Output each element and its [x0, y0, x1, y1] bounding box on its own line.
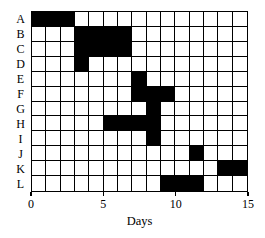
- gantt-empty-cell: [32, 87, 46, 102]
- gantt-bar-cell: [147, 87, 161, 102]
- gantt-empty-cell: [147, 42, 161, 57]
- row-label-c: C: [12, 41, 29, 56]
- gantt-bar-cell: [89, 27, 103, 42]
- gantt-bar-cell: [75, 42, 89, 57]
- gantt-empty-cell: [132, 102, 146, 117]
- gantt-bar-cell: [75, 27, 89, 42]
- gantt-empty-cell: [175, 12, 189, 27]
- gantt-empty-cell: [218, 131, 232, 146]
- gantt-bar-cell: [190, 146, 204, 161]
- gantt-empty-cell: [147, 27, 161, 42]
- gantt-empty-cell: [32, 42, 46, 57]
- gantt-empty-cell: [233, 27, 247, 42]
- gantt-empty-cell: [147, 146, 161, 161]
- gantt-empty-cell: [190, 102, 204, 117]
- gantt-empty-cell: [190, 116, 204, 131]
- gantt-empty-cell: [233, 87, 247, 102]
- gantt-empty-cell: [161, 131, 175, 146]
- gantt-empty-cell: [161, 102, 175, 117]
- gantt-bar-cell: [233, 161, 247, 176]
- gantt-empty-cell: [132, 161, 146, 176]
- row-label-b: B: [12, 26, 29, 41]
- gantt-empty-cell: [118, 87, 132, 102]
- gantt-empty-cell: [132, 27, 146, 42]
- gantt-empty-cell: [233, 57, 247, 72]
- gantt-empty-cell: [104, 87, 118, 102]
- gantt-bar-cell: [132, 87, 146, 102]
- gantt-empty-cell: [118, 102, 132, 117]
- gantt-empty-cell: [175, 102, 189, 117]
- gantt-empty-cell: [132, 176, 146, 191]
- gantt-empty-cell: [89, 87, 103, 102]
- gantt-empty-cell: [175, 116, 189, 131]
- gantt-bar-cell: [104, 116, 118, 131]
- gantt-empty-cell: [218, 72, 232, 87]
- gantt-empty-cell: [161, 116, 175, 131]
- gantt-empty-cell: [46, 72, 60, 87]
- gantt-bar-cell: [132, 116, 146, 131]
- gantt-empty-cell: [75, 116, 89, 131]
- row-label-h: H: [12, 117, 29, 132]
- gantt-empty-cell: [75, 102, 89, 117]
- gantt-empty-cell: [190, 161, 204, 176]
- gantt-empty-cell: [118, 161, 132, 176]
- gantt-bar-cell: [104, 27, 118, 42]
- gantt-empty-cell: [190, 12, 204, 27]
- gantt-empty-cell: [89, 72, 103, 87]
- gantt-empty-cell: [233, 12, 247, 27]
- gantt-empty-cell: [218, 27, 232, 42]
- gantt-empty-cell: [233, 176, 247, 191]
- gantt-empty-cell: [61, 57, 75, 72]
- gantt-empty-cell: [61, 146, 75, 161]
- gantt-empty-cell: [175, 72, 189, 87]
- gantt-empty-cell: [61, 87, 75, 102]
- gantt-empty-cell: [204, 72, 218, 87]
- x-tick-label-0: 0: [28, 197, 34, 212]
- gantt-empty-cell: [46, 42, 60, 57]
- gantt-empty-cell: [218, 87, 232, 102]
- gantt-empty-cell: [61, 131, 75, 146]
- gantt-empty-cell: [61, 176, 75, 191]
- gantt-empty-cell: [190, 57, 204, 72]
- gantt-empty-cell: [161, 57, 175, 72]
- gantt-bar-cell: [61, 12, 75, 27]
- gantt-bar-cell: [75, 57, 89, 72]
- gantt-bar-cell: [161, 176, 175, 191]
- gantt-empty-cell: [175, 57, 189, 72]
- gantt-empty-cell: [204, 87, 218, 102]
- x-tick-10: [175, 192, 176, 196]
- gantt-empty-cell: [204, 146, 218, 161]
- gantt-bar-cell: [118, 116, 132, 131]
- gantt-empty-cell: [32, 131, 46, 146]
- x-tick-5: [103, 192, 104, 196]
- gantt-empty-cell: [46, 27, 60, 42]
- gantt-empty-cell: [204, 161, 218, 176]
- gantt-empty-cell: [89, 161, 103, 176]
- x-axis-title: Days: [31, 214, 248, 229]
- gantt-bar-cell: [147, 102, 161, 117]
- gantt-empty-cell: [233, 146, 247, 161]
- gantt-empty-cell: [161, 146, 175, 161]
- gantt-empty-cell: [161, 161, 175, 176]
- gantt-empty-cell: [75, 12, 89, 27]
- gantt-empty-cell: [75, 72, 89, 87]
- gantt-empty-cell: [32, 27, 46, 42]
- row-label-i: I: [12, 132, 29, 147]
- gantt-empty-cell: [61, 116, 75, 131]
- gantt-empty-cell: [118, 72, 132, 87]
- gantt-bar-cell: [147, 131, 161, 146]
- gantt-empty-cell: [218, 102, 232, 117]
- gantt-empty-cell: [175, 131, 189, 146]
- gantt-empty-cell: [32, 57, 46, 72]
- row-label-g: G: [12, 101, 29, 116]
- gantt-empty-cell: [218, 116, 232, 131]
- gantt-empty-cell: [61, 27, 75, 42]
- gantt-empty-cell: [204, 12, 218, 27]
- gantt-empty-cell: [218, 146, 232, 161]
- gantt-bar-cell: [89, 42, 103, 57]
- gantt-empty-cell: [46, 176, 60, 191]
- gantt-empty-cell: [46, 57, 60, 72]
- gantt-empty-cell: [104, 12, 118, 27]
- gantt-empty-cell: [218, 12, 232, 27]
- gantt-bar-cell: [104, 42, 118, 57]
